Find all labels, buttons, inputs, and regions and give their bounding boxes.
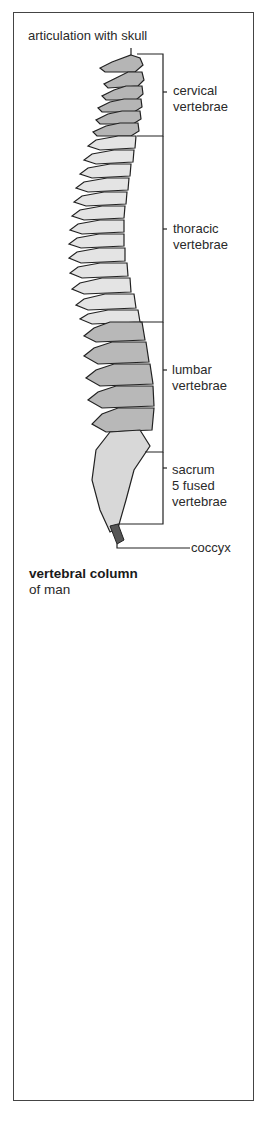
diagram-title: vertebral column [29, 566, 138, 581]
label-sacrum: sacrum 5 fused vertebrae [172, 462, 227, 510]
label-cervical-vertebrae: cervical vertebrae [173, 83, 228, 115]
label-articulation-with-skull: articulation with skull [28, 28, 147, 44]
label-lumbar-vertebrae: lumbar vertebrae [172, 362, 227, 394]
label-coccyx: coccyx [191, 540, 231, 556]
sacrum [92, 430, 150, 532]
diagram-subtitle: of man [29, 582, 70, 597]
cervical-vertebrae [93, 48, 144, 136]
thoracic-vertebrae [69, 136, 140, 324]
lumbar-vertebrae [84, 322, 154, 432]
coccyx [110, 524, 124, 544]
label-thoracic-vertebrae: thoracic vertebrae [173, 221, 228, 253]
spine-illustration [0, 0, 262, 1122]
